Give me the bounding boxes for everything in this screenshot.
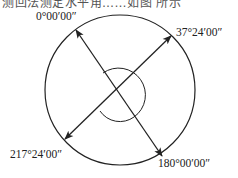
label-37-degrees: 37°24′00″ xyxy=(176,26,222,38)
direction-line-0-180 xyxy=(76,30,162,156)
label-217-degrees: 217°24′00″ xyxy=(10,148,62,160)
direction-line-217-37 xyxy=(65,36,171,139)
label-180-degrees: 180°00′00″ xyxy=(158,157,210,169)
horizontal-circle xyxy=(45,15,195,165)
label-0-degrees: 0°00′00″ xyxy=(36,10,77,22)
